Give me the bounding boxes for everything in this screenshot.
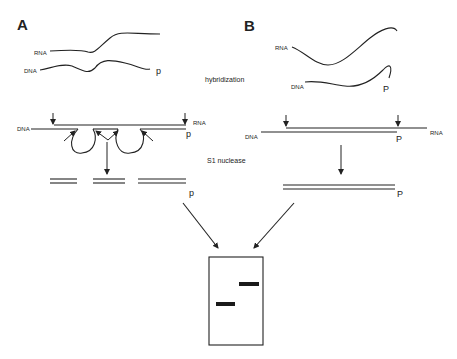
dna-loop — [72, 129, 96, 153]
dna-loop — [116, 129, 143, 153]
panel-a-strands: RNA DNA p — [24, 33, 161, 76]
gel — [209, 257, 263, 345]
panel-a-label: A — [17, 16, 28, 33]
converge-arrow-icon — [254, 203, 294, 248]
panel-b-strands: RNA DNA P — [275, 28, 397, 94]
rna-strand — [50, 33, 160, 52]
rna-label: RNA — [430, 130, 443, 136]
dna-label: DNA — [17, 126, 30, 132]
step-hybridization: hybridization — [205, 76, 244, 84]
phosphate-label: P — [383, 84, 389, 94]
phosphate-label: p — [186, 129, 191, 139]
dna-label: DNA — [245, 134, 258, 140]
dna-strand — [40, 61, 150, 72]
panel-a-products: p — [50, 179, 194, 198]
dna-label: DNA — [24, 68, 37, 74]
panel-b-products: P — [283, 185, 403, 199]
s1-mapping-diagram: A RNA DNA p RNA DNA p p — [0, 0, 457, 359]
rna-label: RNA — [193, 120, 206, 126]
rna-strand — [292, 28, 397, 65]
phosphate-label: p — [156, 66, 161, 76]
gel-frame — [209, 257, 263, 345]
phosphate-label: P — [396, 134, 402, 144]
phosphate-label: p — [189, 188, 194, 198]
gel-band-lower — [216, 302, 235, 306]
panel-a-hybrid: RNA DNA p — [17, 113, 206, 174]
phosphate-label: P — [397, 189, 403, 199]
panel-b-label: B — [244, 17, 255, 34]
nuclease-arrow-icon — [96, 131, 108, 140]
panel-b-hybrid: RNA DNA P — [245, 115, 443, 174]
converge-arrow-icon — [183, 203, 218, 248]
gel-band-upper — [239, 282, 259, 286]
dna-strand — [305, 66, 391, 86]
rna-label: RNA — [275, 45, 288, 51]
step-s1-nuclease: S1 nuclease — [207, 157, 246, 164]
dna-label: DNA — [291, 84, 304, 90]
rna-label: RNA — [34, 50, 47, 56]
